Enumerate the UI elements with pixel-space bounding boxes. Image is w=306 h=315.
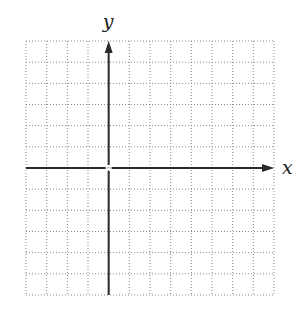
y-axis-label: y	[102, 10, 114, 32]
x-axis-label: x	[282, 156, 293, 178]
coordinate-plane: x y	[0, 0, 306, 315]
y-axis-arrow-icon	[105, 41, 113, 53]
x-axis-arrow-icon	[262, 164, 274, 172]
